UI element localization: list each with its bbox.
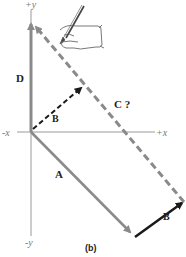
vector-d-label: D xyxy=(16,72,24,84)
vector-b-dashed-label: B xyxy=(52,113,59,124)
vector-a-label: A xyxy=(55,168,63,180)
plus-y-label: +y xyxy=(25,0,37,10)
hand-drawing-pencil-icon xyxy=(60,5,104,49)
vector-diagram: +y -y -x +x D A B B C ? (b) xyxy=(0,0,186,257)
plus-x-label: +x xyxy=(156,127,168,138)
minus-y-label: -y xyxy=(25,237,33,248)
minus-x-label: -x xyxy=(2,127,10,138)
axes xyxy=(17,10,155,236)
figure-caption: (b) xyxy=(85,243,97,253)
vector-b-solid xyxy=(135,203,182,237)
vector-b-solid-label: B xyxy=(163,211,170,222)
vector-c-label: C ? xyxy=(114,98,130,110)
vector-a xyxy=(31,132,130,232)
